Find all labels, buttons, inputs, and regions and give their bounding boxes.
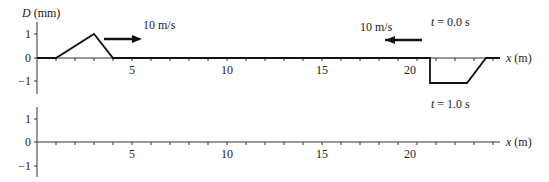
top-y-tick-label: −1	[18, 74, 31, 88]
top-x-tick-label: 15	[316, 63, 328, 77]
bottom-y-tick-label: 1	[25, 112, 31, 126]
bottom-x-axis-label: x (m)	[505, 135, 532, 149]
arrow-right-icon	[104, 35, 142, 43]
bottom-x-tick-label: 10	[221, 147, 233, 161]
top-time-label: t = 0.0 s	[431, 15, 470, 29]
bottom-y-tick-label: −1	[18, 159, 31, 173]
bottom-y-tick-label: 0	[25, 135, 31, 149]
top-x-axis-label: x (m)	[505, 51, 532, 65]
bottom-x-tick-label: 20	[404, 147, 416, 161]
wave-diagram: 1 0 −1 D (mm)	[0, 0, 549, 182]
bottom-panel: 1 0 −1	[18, 97, 531, 177]
top-x-tick-label: 20	[404, 63, 416, 77]
top-speed-left-label: 10 m/s	[360, 20, 393, 34]
top-y-tick-label: 0	[25, 51, 31, 65]
top-x-tick-label: 10	[221, 63, 233, 77]
top-x-tick-label: 5	[129, 63, 135, 77]
bottom-x-tick-label: 5	[129, 147, 135, 161]
top-y-axis-label: D (mm)	[21, 6, 60, 20]
bottom-time-label: t = 1.0 s	[431, 97, 470, 111]
top-y-tick-label: 1	[25, 27, 31, 41]
top-panel: 1 0 −1 D (mm)	[18, 6, 531, 94]
arrow-left-icon	[385, 36, 422, 44]
top-speed-right-label: 10 m/s	[143, 18, 176, 32]
bottom-x-tick-label: 15	[316, 147, 328, 161]
